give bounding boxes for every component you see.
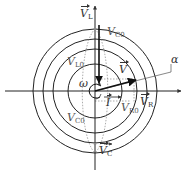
marker-right: [133, 90, 136, 93]
axes: [5, 6, 181, 170]
v-r0-subscript: R0: [129, 107, 139, 115]
label-v-r: VR: [140, 96, 153, 109]
v-r0-symbol: V: [121, 101, 129, 114]
label-i: I: [106, 97, 110, 108]
v-r-subscript: R: [148, 101, 153, 109]
marker-bottom: [94, 143, 97, 146]
v-l0-subscript: L0: [75, 61, 84, 69]
v-c-vector-symbol: V: [99, 145, 107, 156]
v-c-subscript: C: [107, 150, 112, 158]
v-vector-symbol: V: [119, 64, 127, 75]
v-l-vector-symbol: V: [80, 8, 88, 19]
omega-symbol: ω: [79, 77, 88, 90]
v-c0-bottom-symbol: V: [67, 111, 75, 124]
v-c0-top-subscript: C0: [115, 31, 125, 39]
label-alpha: α: [171, 54, 178, 65]
i-vector-symbol: I: [106, 97, 110, 108]
label-v-c0-top: VC0: [107, 26, 125, 39]
label-v: V: [119, 64, 127, 75]
label-omega: ω: [79, 78, 88, 89]
alpha-leader-line: [95, 64, 171, 91]
label-v-c0-bottom: VC0: [67, 112, 85, 125]
marker-top: [94, 28, 97, 31]
label-v-l: VL: [80, 8, 93, 21]
v-r-vector-symbol: V: [140, 96, 148, 107]
label-v-r0: VR0: [121, 102, 139, 115]
v-l0-symbol: V: [67, 55, 75, 68]
label-v-c: VC: [99, 145, 112, 158]
v-l-subscript: L: [88, 13, 93, 21]
label-v-l0: VL0: [67, 56, 84, 69]
alpha-symbol: α: [171, 53, 178, 66]
v-c0-top-symbol: V: [107, 25, 115, 38]
phasor-diagram: [0, 0, 189, 174]
v-c0-bottom-subscript: C0: [75, 117, 85, 125]
